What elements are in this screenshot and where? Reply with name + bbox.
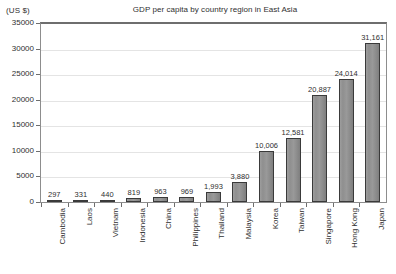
y-axis-tick-label: 30000 <box>12 44 34 53</box>
x-axis-label-text: Hong Kong <box>350 208 359 248</box>
y-axis-tick-label: 35000 <box>12 18 34 27</box>
y-axis-unit-label: (US $) <box>6 6 30 15</box>
chart-title: GDP per capita by country region in East… <box>40 5 390 14</box>
x-axis-label-slot: Vietnam <box>94 206 121 272</box>
bar-group[interactable]: 963 <box>147 23 174 202</box>
x-axis-label: Indonesia <box>137 173 146 208</box>
bar-group[interactable]: 31,161 <box>359 23 386 202</box>
bar-group[interactable]: 440 <box>94 23 121 202</box>
bar-group[interactable]: 12,581 <box>280 23 307 202</box>
x-axis-label-text: China <box>164 208 173 229</box>
x-axis-label-text: Thailand <box>217 208 226 239</box>
bar-value-label: 24,014 <box>335 69 358 78</box>
bars-container: 2973314408199639691,9933,88010,00612,581… <box>41 23 386 202</box>
x-axis-label: Thailand <box>217 177 226 208</box>
x-axis-label-slot: Singapore <box>306 206 333 272</box>
x-axis-label: Japan <box>376 186 385 208</box>
x-axis-label-slot: Korea <box>253 206 280 272</box>
bar[interactable] <box>365 43 380 202</box>
x-axis-label: Malaysia <box>243 176 252 208</box>
y-axis-tick-label: 5000 <box>16 171 34 180</box>
bar-group[interactable]: 331 <box>68 23 95 202</box>
y-axis-tick-label: 15000 <box>12 120 34 129</box>
x-axis-label-text: Korea <box>270 208 279 229</box>
x-axis-label-text: Philippines <box>190 208 199 247</box>
y-axis-tick-label: 0 <box>30 197 34 206</box>
x-axis-label-text: Taiwan <box>297 208 306 233</box>
bar-value-label: 12,581 <box>282 128 305 137</box>
x-axis-label-slot: China <box>147 206 174 272</box>
y-axis-tick-label: 25000 <box>12 69 34 78</box>
x-axis-label-text: Malaysia <box>243 208 252 240</box>
x-axis-label-slot: Hong Kong <box>333 206 360 272</box>
x-axis-label: Vietnam <box>111 179 120 208</box>
x-axis-label-slot: Taiwan <box>280 206 307 272</box>
x-axis-label: Hong Kong <box>350 168 359 208</box>
x-axis-label-text: Indonesia <box>137 208 146 243</box>
x-axis-labels: CambodiaLaosVietnamIndonesiaChinaPhilipp… <box>41 206 386 272</box>
x-axis-label-slot: Laos <box>68 206 95 272</box>
y-axis: 05000100001500020000250003000035000 <box>0 22 40 203</box>
bar-group[interactable]: 1,993 <box>200 23 227 202</box>
x-axis-label: Singapore <box>323 172 332 208</box>
x-axis-label: China <box>164 187 173 208</box>
x-axis-label-slot: Japan <box>359 206 386 272</box>
x-axis-label-text: Singapore <box>323 208 332 244</box>
x-axis-label: Cambodia <box>58 172 67 208</box>
bar-value-label: 20,887 <box>308 85 331 94</box>
y-axis-tick-label: 20000 <box>12 95 34 104</box>
bar-group[interactable]: 10,006 <box>253 23 280 202</box>
x-axis-label-slot: Thailand <box>200 206 227 272</box>
x-axis-label: Korea <box>270 187 279 208</box>
bar-value-label: 31,161 <box>361 33 384 42</box>
x-axis-label-slot: Philippines <box>174 206 201 272</box>
y-axis-tick-label: 10000 <box>12 146 34 155</box>
bar-group[interactable]: 3,880 <box>227 23 254 202</box>
x-axis-label-text: Vietnam <box>111 208 120 237</box>
x-axis-label-text: Cambodia <box>58 208 67 244</box>
x-axis-label: Taiwan <box>297 183 306 208</box>
x-axis-label-text: Japan <box>376 208 385 230</box>
x-axis-label-slot: Indonesia <box>121 206 148 272</box>
x-axis-label: Philippines <box>190 169 199 208</box>
x-axis-label: Laos <box>84 191 93 208</box>
x-axis-label-slot: Malaysia <box>227 206 254 272</box>
x-axis-label-text: Laos <box>84 208 93 225</box>
gdp-bar-chart: (US $) GDP per capita by country region … <box>0 0 396 274</box>
bar-value-label: 10,006 <box>255 141 278 150</box>
x-axis-label-slot: Cambodia <box>41 206 68 272</box>
